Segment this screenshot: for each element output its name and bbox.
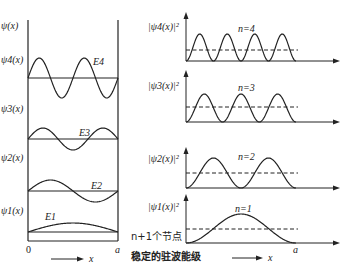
prob3-curve <box>186 94 296 122</box>
prob4-curve <box>186 34 296 61</box>
n1-label: n=1 <box>235 203 252 214</box>
energy-e3-label: E3 <box>78 127 90 138</box>
left-x-label: x <box>88 253 94 264</box>
wavefunction-curves <box>28 58 118 232</box>
psi4-label: ψ4(x) <box>1 54 24 66</box>
energy-e1-label: E1 <box>44 211 56 222</box>
left-box <box>28 20 118 241</box>
psi1-label: ψ1(x) <box>1 205 24 217</box>
left-x-arrow <box>51 257 84 262</box>
energy-e2-label: E2 <box>90 180 102 191</box>
caption: 稳定的驻波能级 <box>131 250 202 262</box>
prob2-label: |ψ2(x)|² <box>148 153 180 165</box>
particle-in-box-diagram: ψ(x) ψ4(x) ψ3(x) ψ2(x) ψ1(x) E4 E3 E2 E1… <box>0 0 347 269</box>
n4-label: n=4 <box>238 23 255 34</box>
prob3-label: |ψ3(x)|² <box>148 80 180 92</box>
nodes-note: n+1个节点 <box>131 231 182 242</box>
psi-axis-label: ψ(x) <box>1 20 19 32</box>
prob4-label: |ψ4(x)|² <box>148 21 180 33</box>
energy-e4-label: E4 <box>92 56 104 67</box>
prob1-label: |ψ1(x)|² <box>148 201 180 213</box>
right-x-label: x <box>267 252 273 263</box>
origin-label: 0 <box>26 244 31 255</box>
psi2-label: ψ2(x) <box>1 152 24 164</box>
right-x-arrow <box>232 256 263 261</box>
diagram-canvas: ψ(x) ψ4(x) ψ3(x) ψ2(x) ψ1(x) E4 E3 E2 E1… <box>0 0 347 269</box>
n2-label: n=2 <box>238 151 255 162</box>
left-a-label: a <box>115 244 120 255</box>
right-a-label: a <box>293 244 298 255</box>
n3-label: n=3 <box>238 82 255 93</box>
psi3-label: ψ3(x) <box>1 103 24 115</box>
psi1-curve <box>28 223 118 232</box>
